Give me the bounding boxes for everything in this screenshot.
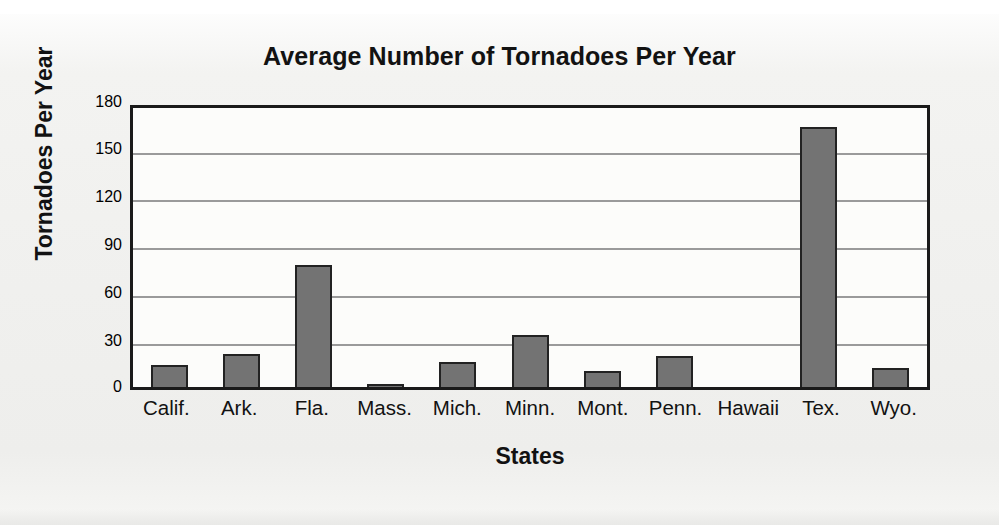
bar-minn: [512, 335, 549, 387]
bar-slot: [422, 108, 494, 387]
x-tick-label-mont: Mont.: [566, 396, 639, 426]
x-tick-label-mass: Mass.: [348, 396, 421, 426]
x-tick-label-mich: Mich.: [421, 396, 494, 426]
bar-slot: [566, 108, 638, 387]
bar-slot: [133, 108, 205, 387]
bar-slot: [494, 108, 566, 387]
bar-fla: [295, 265, 332, 387]
bar-chart: Average Number of Tornadoes Per Year Tor…: [0, 0, 999, 525]
chart-title: Average Number of Tornadoes Per Year: [0, 42, 999, 71]
y-tick-label-30: 30: [40, 332, 122, 350]
bar-slot: [783, 108, 855, 387]
x-tick-label-wyo: Wyo.: [857, 396, 930, 426]
x-tick-label-penn: Penn.: [639, 396, 712, 426]
bar-mich: [439, 362, 476, 387]
y-tick-label-90: 90: [40, 236, 122, 254]
bar-wyo: [872, 368, 909, 387]
bar-slot: [350, 108, 422, 387]
bar-slot: [205, 108, 277, 387]
y-tick-label-150: 150: [40, 140, 122, 158]
x-axis-tick-labels: Calif.Ark.Fla.Mass.Mich.Minn.Mont.Penn.H…: [130, 396, 930, 426]
y-tick-label-0: 0: [40, 378, 122, 396]
x-tick-label-tex: Tex.: [785, 396, 858, 426]
bar-slot: [277, 108, 349, 387]
bar-penn: [656, 356, 693, 387]
x-tick-label-ark: Ark.: [203, 396, 276, 426]
y-tick-label-180: 180: [40, 93, 122, 111]
y-tick-label-120: 120: [40, 188, 122, 206]
bar-mass: [367, 384, 404, 387]
bar-slot: [711, 108, 783, 387]
bar-slot: [638, 108, 710, 387]
x-tick-label-minn: Minn.: [494, 396, 567, 426]
x-tick-label-fla: Fla.: [275, 396, 348, 426]
plot-area: [130, 105, 930, 390]
bar-ark: [223, 354, 260, 387]
y-tick-label-60: 60: [40, 284, 122, 302]
x-tick-label-calif: Calif.: [130, 396, 203, 426]
x-tick-label-hawaii: Hawaii: [712, 396, 785, 426]
bar-tex: [800, 127, 837, 387]
bar-slot: [855, 108, 927, 387]
x-axis-title: States: [130, 443, 930, 470]
bar-mont: [584, 371, 621, 387]
bar-series: [133, 108, 927, 387]
bar-calif: [151, 365, 188, 387]
